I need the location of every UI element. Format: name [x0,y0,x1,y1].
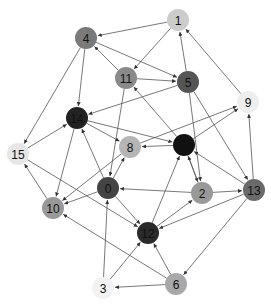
node-label: 6 [173,278,180,292]
edge-13-to-9 [249,114,253,179]
graph-node-6[interactable]: 6 [165,273,187,295]
edge-3-to-12 [110,242,140,279]
edge-3-to-0 [104,200,108,277]
node-label: 11 [120,72,133,86]
graph-node-13[interactable]: 13 [243,179,265,201]
edge-7-to-11 [134,87,177,137]
graph-node-9[interactable]: 9 [237,91,259,113]
node-label: 8 [127,141,134,155]
edge-6-to-12 [154,244,171,275]
graph-node-12[interactable]: 12 [137,222,159,244]
edge-2-to-7 [188,156,198,182]
graph-node-0[interactable]: 0 [97,177,119,199]
edge-2-to-13 [213,191,242,193]
edge-5-to-14 [88,85,177,114]
edge-15-to-12 [27,160,137,227]
node-label: 12 [141,227,155,241]
graph-node-3[interactable]: 3 [92,277,114,299]
edge-1-to-11 [134,28,171,69]
node-label: 15 [11,148,25,162]
node-label: 2 [199,187,206,201]
graph-node-8[interactable]: 8 [119,136,141,158]
graph-node-7[interactable]: 7 [173,134,195,156]
node-label: 13 [247,184,261,198]
edge-0-to-10 [64,192,97,204]
edge-13-to-6 [184,198,247,274]
edge-5-to-1 [180,32,186,71]
edge-7-to-9 [193,109,238,139]
edge-11-to-5 [137,79,176,82]
edge-14-to-8 [87,123,120,141]
graph-node-15[interactable]: 15 [7,143,29,165]
graph-node-10[interactable]: 10 [42,197,64,219]
edges-layer [24,22,253,287]
node-label: 3 [100,282,107,296]
edge-6-to-3 [115,285,165,288]
edge-11-to-0 [110,89,124,176]
nodes-layer: 0123456789101112131415 [7,9,265,299]
node-label: 1 [175,14,182,28]
edge-13-to-7 [194,151,245,184]
node-label: 5 [185,76,192,90]
graph-node-11[interactable]: 11 [115,67,137,89]
graph-node-14[interactable]: 14 [66,107,88,129]
edge-0-to-8 [113,158,124,179]
edge-2-to-0 [120,189,191,193]
graph-node-4[interactable]: 4 [75,27,97,49]
node-label: 7 [181,139,188,153]
edge-4-to-15 [24,47,80,143]
edge-4-to-14 [78,49,84,106]
node-label: 4 [83,32,90,46]
graph-node-5[interactable]: 5 [177,71,199,93]
node-label: 0 [105,182,112,196]
graph-canvas: 0123456789101112131415 [0,0,271,307]
graph-node-1[interactable]: 1 [167,9,189,31]
node-label: 9 [245,96,252,110]
edge-7-to-8 [142,145,173,146]
graph-node-2[interactable]: 2 [191,182,213,204]
node-label: 14 [70,112,84,126]
edge-0-to-12 [115,196,140,224]
directed-graph: 0123456789101112131415 [0,0,271,307]
node-label: 10 [46,202,60,216]
edge-1-to-4 [98,22,167,36]
